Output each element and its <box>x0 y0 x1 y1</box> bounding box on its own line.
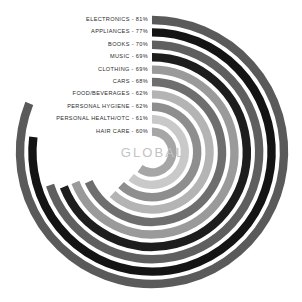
arc-group <box>20 20 284 284</box>
arc-segment <box>50 45 259 259</box>
radial-bar-chart: ELECTRONICS - 81%APPLIANCES - 77%BOOKS -… <box>0 0 302 302</box>
arc-segment <box>140 132 172 173</box>
radial-arcs-svg <box>0 0 302 302</box>
